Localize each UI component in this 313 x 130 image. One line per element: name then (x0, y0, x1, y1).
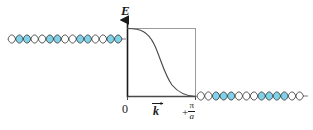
orbital-lobe (23, 35, 31, 43)
orbital-lobe (16, 35, 24, 43)
orbital-chain-lower-right (197, 92, 308, 100)
orbital-lobe (212, 92, 220, 100)
orbital-lobe (8, 35, 16, 43)
orbital-lobe (92, 35, 100, 43)
orbital-lobe (69, 35, 77, 43)
orbital-lobe (84, 35, 92, 43)
x-tick-label-origin: 0 (122, 103, 128, 115)
orbital-lobe (296, 92, 304, 100)
x-axis-label: k (152, 101, 168, 121)
orbital-lobe (243, 92, 251, 100)
orbital-lobe (227, 92, 235, 100)
orbital-lobe (205, 92, 213, 100)
orbital-lobe (281, 92, 289, 100)
dispersion-curve (128, 29, 197, 97)
band-structure-figure: E 0 k + π a (0, 0, 313, 130)
x-axis-label-text: k (153, 105, 159, 117)
x-tick-label-pi-over-a: + π a (182, 101, 195, 121)
orbital-lobe (258, 92, 266, 100)
orbital-lobe (76, 35, 84, 43)
orbital-chain-upper-left (8, 35, 126, 43)
orbital-lobe (273, 92, 281, 100)
brillouin-sign: + (182, 107, 188, 118)
orbital-lobe (197, 92, 205, 100)
orbital-lobe (220, 92, 228, 100)
pi-over-a-fraction: π a (188, 101, 195, 121)
orbital-lobe (31, 35, 39, 43)
orbital-lobe (265, 92, 273, 100)
orbital-lobe (250, 92, 258, 100)
dispersion-curve-path (128, 29, 197, 97)
orbital-lobe (99, 35, 107, 43)
orbital-lobe (288, 92, 296, 100)
orbital-lobe (54, 35, 62, 43)
orbital-lobe (38, 35, 46, 43)
plot-frame (127, 20, 196, 97)
orbital-lobe (114, 35, 122, 43)
fraction-denominator: a (188, 112, 195, 121)
orbital-lobe (235, 92, 243, 100)
orbital-lobe (46, 35, 54, 43)
y-axis-label: E (121, 4, 130, 17)
orbital-lobe (61, 35, 69, 43)
fraction-numerator: π (188, 101, 195, 110)
orbital-lobe (107, 35, 115, 43)
